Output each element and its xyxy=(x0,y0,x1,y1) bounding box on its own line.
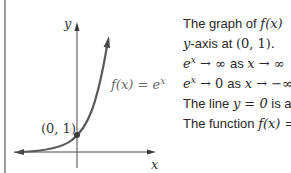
text-line-4-arrow1: → 0 xyxy=(196,76,228,91)
text-line-2-mid: -axis at xyxy=(190,36,236,51)
text-line-3-e: e xyxy=(183,56,191,71)
text-line-2-math: (0, 1). xyxy=(236,36,275,51)
text-line-4: ex → 0 as x → −∞ xyxy=(183,74,291,94)
text-line-4-arrow2: → −∞ xyxy=(252,76,291,91)
text-line-3-arrow2: → ∞ xyxy=(255,56,285,71)
curve-arrow-up-icon xyxy=(104,36,111,48)
text-line-3-x: x xyxy=(247,56,254,71)
text-line-3-arrow1: → ∞ xyxy=(196,56,230,71)
curve-label: f(x) = ex xyxy=(111,78,165,91)
text-line-1: The graph of f(x) xyxy=(183,14,291,34)
exponential-curve xyxy=(20,46,107,152)
x-axis-label: x xyxy=(151,158,158,171)
curve-label-exponent: x xyxy=(160,76,165,86)
curve-label-base: f(x) = e xyxy=(111,77,160,92)
x-axis-arrow-icon xyxy=(147,150,156,155)
text-line-3: ex → ∞ as x → ∞ xyxy=(183,54,291,74)
text-line-1-math: f(x) xyxy=(260,16,282,31)
text-line-2: y-axis at (0, 1). xyxy=(183,34,291,54)
text-line-4-e: e xyxy=(183,76,191,91)
text-line-6-pre: The function xyxy=(183,116,258,131)
curve-arrow-left-icon xyxy=(14,149,24,155)
y-axis-label: y xyxy=(64,17,71,30)
text-line-5-pre: The line xyxy=(183,96,233,111)
exponential-graph-figure: y x (0, 1) f(x) = ex xyxy=(0,0,170,173)
text-line-4-as: as xyxy=(227,76,244,91)
y-axis-arrow-icon xyxy=(75,22,80,31)
text-line-3-as: as xyxy=(230,56,247,71)
text-line-5-post: is a xyxy=(268,96,291,111)
text-line-5: The line y = 0 is a xyxy=(183,94,291,114)
text-line-6: The function f(x) = xyxy=(183,114,291,134)
text-line-6-math: f(x) = xyxy=(258,116,291,131)
text-line-5-math: y = 0 xyxy=(233,96,268,111)
text-line-4-x: x xyxy=(245,76,252,91)
text-line-1-pre: The graph of xyxy=(183,16,260,31)
point-label: (0, 1) xyxy=(41,122,76,135)
description-text-block: The graph of f(x) y-axis at (0, 1). ex →… xyxy=(183,14,291,134)
